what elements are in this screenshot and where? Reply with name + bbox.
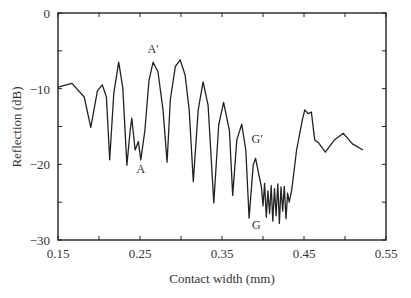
x-tick-label: 0.15: [47, 246, 70, 261]
y-tick-label: 0: [44, 6, 51, 21]
y-tick-label: −30: [30, 233, 50, 248]
annotation-label: G: [252, 218, 261, 232]
y-tick-label: −20: [30, 157, 50, 172]
y-tick-label: −10: [30, 82, 50, 97]
y-axis-title: Reflection (dB): [9, 86, 24, 167]
x-tick-label: 0.35: [211, 246, 234, 261]
x-tick-label: 0.25: [129, 246, 152, 261]
annotation-label: A′: [147, 42, 159, 56]
x-tick-label: 0.55: [375, 246, 398, 261]
axis-ticks: [58, 13, 386, 240]
annotation-label: A: [136, 162, 145, 176]
annotation-label: G′: [252, 132, 264, 146]
reflection-curve: [58, 60, 363, 224]
x-axis-title: Contact width (mm): [169, 271, 274, 286]
reflection-chart: 0.150.250.350.450.550−10−20−30 A′AG′G Co…: [0, 0, 411, 298]
plot-frame: [58, 13, 386, 240]
x-tick-label: 0.45: [293, 246, 316, 261]
